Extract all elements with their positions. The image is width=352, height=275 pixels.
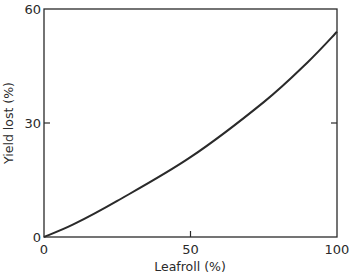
tick-labels: 03060050100 [24, 2, 349, 257]
x-tick-label: 0 [40, 242, 48, 257]
y-tick-label: 30 [24, 116, 41, 131]
axis-ticks [44, 123, 337, 237]
yield-lost-curve [44, 32, 337, 237]
plot-frame [44, 9, 337, 237]
x-axis-title: Leafroll (%) [154, 259, 226, 274]
y-tick-label: 60 [24, 2, 41, 17]
x-tick-label: 50 [182, 242, 199, 257]
x-tick-label: 100 [325, 242, 350, 257]
line-chart: 03060050100 Leafroll (%) Yield lost (%) [0, 0, 352, 275]
y-axis-title: Yield lost (%) [1, 82, 16, 165]
